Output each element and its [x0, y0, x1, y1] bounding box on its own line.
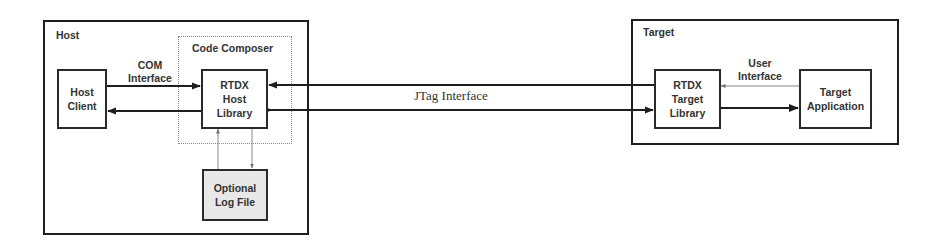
target-application-box: Target Application	[799, 69, 872, 129]
jtag-interface-label: JTag Interface	[414, 88, 488, 104]
rtdx-host-library-box: RTDX Host Library	[201, 69, 268, 129]
rtdx-host-library-label: RTDX Host Library	[217, 78, 253, 120]
optional-log-file-box: Optional Log File	[202, 169, 268, 221]
host-client-label: Host Client	[67, 85, 96, 113]
rtdx-architecture-diagram: Host Code Composer Target	[0, 0, 941, 247]
optional-log-file-label: Optional Log File	[214, 181, 257, 209]
target-application-label: Target Application	[807, 85, 864, 113]
user-interface-label: User Interface	[730, 57, 790, 83]
host-client-box: Host Client	[57, 69, 107, 129]
rtdx-target-library-label: RTDX Target Library	[670, 78, 706, 120]
com-interface-label: COM Interface	[115, 59, 185, 85]
rtdx-target-library-box: RTDX Target Library	[654, 69, 721, 129]
